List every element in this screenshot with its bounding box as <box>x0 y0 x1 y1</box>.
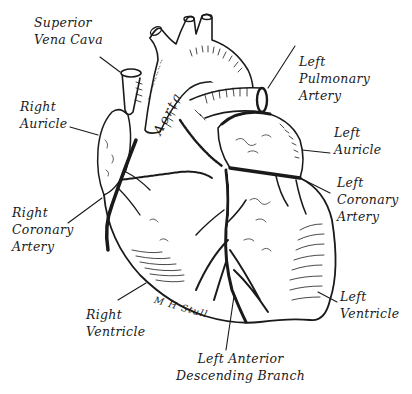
heart-outline <box>104 170 336 323</box>
label-left-coronary-artery: Left Coronary Artery <box>337 174 399 225</box>
label-right-ventricle: Right Ventricle <box>86 306 145 340</box>
leader-lines <box>68 46 337 350</box>
label-superior-vena-cava: Superior Vena Cava <box>34 14 103 48</box>
heart-diagram: Superior Vena Cava Right Auricle Right C… <box>0 0 412 394</box>
label-right-coronary-artery: Right Coronary Artery <box>12 204 74 255</box>
superior-vena-cava-shape <box>121 69 142 115</box>
label-left-auricle: Left Auricle <box>334 124 382 158</box>
left-auricle-shape <box>218 112 303 178</box>
label-left-anterior-descending-branch: Left Anterior Descending Branch <box>176 350 305 384</box>
label-left-pulmonary-artery: Left Pulmonary Artery <box>299 53 370 104</box>
label-left-ventricle: Left Ventricle <box>340 288 399 322</box>
label-right-auricle: Right Auricle <box>20 98 68 132</box>
right-auricle-shape <box>98 110 131 195</box>
